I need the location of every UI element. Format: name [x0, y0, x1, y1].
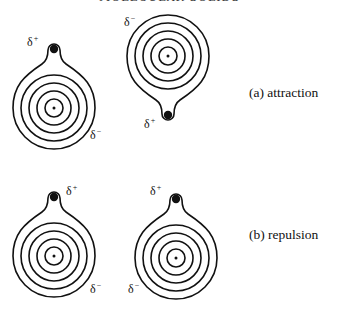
- molecule-a-right: [127, 15, 209, 120]
- caption-attraction: (a) attraction: [249, 85, 318, 101]
- delta-plus-label: δ+: [27, 34, 38, 50]
- molecule-b-right: [135, 194, 217, 299]
- delta-minus-label: δ−: [128, 281, 139, 297]
- caption-repulsion: (b) repulsion: [249, 227, 318, 243]
- molecule-b-left: [13, 192, 95, 297]
- delta-minus-label: δ−: [124, 14, 135, 30]
- delta-plus-label: δ+: [144, 116, 155, 132]
- dipole-diagram: [0, 0, 339, 310]
- delta-minus-label: δ−: [90, 127, 101, 143]
- delta-minus-label: δ−: [90, 281, 101, 297]
- delta-plus-label: δ+: [150, 183, 161, 199]
- delta-plus-label: δ+: [66, 183, 77, 199]
- molecule-a-left: [13, 44, 95, 149]
